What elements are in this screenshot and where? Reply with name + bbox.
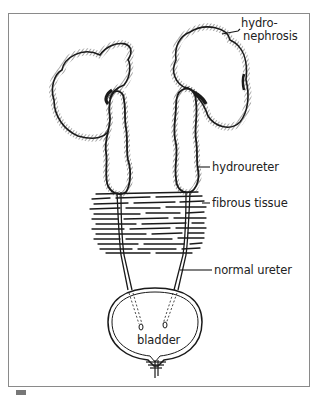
left-hydroureter — [106, 91, 131, 194]
label-bladder: bladder — [137, 334, 180, 347]
label-normal-ureter: normal ureter — [214, 264, 292, 277]
right-hydroureter — [174, 89, 198, 193]
label-hydroureter: hydroureter — [212, 161, 279, 174]
label-fibrous-tissue: fibrous tissue — [212, 197, 288, 210]
label-hydronephrosis-line2: nephrosis — [243, 30, 298, 43]
